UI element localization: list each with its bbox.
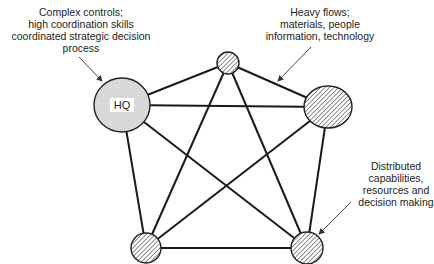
hq-annotation: Complex controls; high coordination skil…	[6, 6, 156, 54]
node-bottom-right	[291, 232, 323, 264]
hq-annotation-line: process	[6, 42, 156, 54]
distributed-annotation-line: capabilities,	[355, 172, 434, 184]
hq-node-label: HQ	[110, 98, 134, 112]
edge-hq-right	[122, 105, 328, 107]
distributed-annotation-line: Distributed	[355, 160, 434, 172]
arrow-distributed-note	[319, 202, 351, 234]
flows-annotation-line: materials, people	[255, 18, 385, 30]
flows-annotation: Heavy flows; materials, people informati…	[255, 6, 385, 42]
nodes	[94, 52, 352, 264]
edge-hq-bottom-right	[122, 105, 307, 248]
edge-right-bottom-left	[146, 107, 328, 248]
hq-annotation-line: coordinated strategic decision	[6, 30, 156, 42]
distributed-annotation-line: decision making	[355, 196, 434, 208]
edges	[122, 63, 328, 248]
edge-top-bottom-right	[228, 63, 307, 248]
distributed-annotation-line: resources and	[355, 184, 434, 196]
hq-annotation-line: high coordination skills	[6, 18, 156, 30]
flows-annotation-line: information, technology	[255, 30, 385, 42]
node-top	[217, 52, 239, 74]
distributed-annotation: Distributed capabilities, resources and …	[355, 160, 434, 208]
flows-annotation-line: Heavy flows;	[255, 6, 385, 18]
annotation-arrows	[79, 47, 351, 234]
hq-annotation-line: Complex controls;	[6, 6, 156, 18]
arrow-flows-note	[278, 47, 311, 81]
node-bottom-left	[131, 233, 161, 263]
node-right	[304, 86, 352, 128]
arrow-hq-note	[79, 57, 102, 81]
